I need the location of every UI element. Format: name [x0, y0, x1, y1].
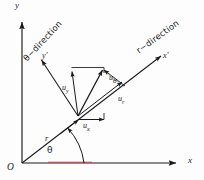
uy-component-arrow [72, 72, 78, 117]
uy-label: uy [62, 84, 69, 94]
origin-label: O [7, 163, 14, 173]
ur-component-arrow [78, 82, 122, 116]
ux-subscript: x [87, 126, 90, 132]
cartesian-rect-top [72, 68, 105, 74]
r-axis [22, 56, 161, 163]
theta-angle-label: θ [47, 146, 53, 155]
x-axis-label: x [188, 156, 192, 165]
theta-angle-arc [68, 128, 85, 163]
ux-label: ux [83, 122, 90, 132]
r-axis-midpoint-arrow [60, 120, 79, 134]
utheta-subscript: θ [113, 77, 117, 84]
y-prime-axis [42, 60, 79, 116]
radius-label: r [45, 134, 48, 143]
x-prime-axis-label: x' [163, 52, 168, 60]
ur-subscript: r [122, 99, 124, 105]
y-prime-axis-label: y' [42, 52, 47, 60]
uy-subscript: y [66, 88, 69, 94]
utheta-label: uθ [109, 74, 117, 84]
resultant-vector [78, 70, 103, 116]
ur-label: ur [118, 95, 125, 105]
y-axis-label: y [15, 1, 19, 10]
figure-canvas: y x O θ−direction y' r−direction x' r θ … [0, 0, 204, 180]
